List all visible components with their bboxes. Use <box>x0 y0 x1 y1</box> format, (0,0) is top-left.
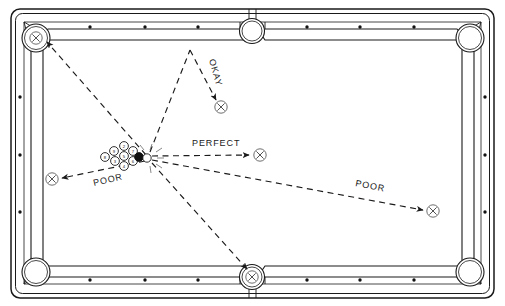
diamond-top-4 <box>305 25 308 28</box>
diagram-canvas: 8 9 2 7 5 4 3 <box>0 0 505 306</box>
diamond-bottom-3 <box>196 278 199 281</box>
diamond-bottom-1 <box>88 278 91 281</box>
ball-2[interactable]: 2 <box>120 142 129 151</box>
diamond-left-1 <box>18 95 21 98</box>
ball-3[interactable]: 3 <box>111 157 120 166</box>
cue-ball[interactable] <box>143 154 151 162</box>
diamond-left-3 <box>18 210 21 213</box>
diamond-bottom-6 <box>412 278 415 281</box>
pool-table-illustration: 8 9 2 7 5 4 3 <box>0 0 505 306</box>
diamond-right-2 <box>483 153 486 156</box>
ball-5[interactable]: 5 <box>120 152 129 161</box>
target-poor-right[interactable] <box>427 205 439 217</box>
target-okay[interactable] <box>215 101 227 113</box>
playing-surface <box>31 29 474 277</box>
diamond-bottom-2 <box>143 278 146 281</box>
ball-8[interactable]: 8 <box>101 153 110 162</box>
pocket-top-side[interactable] <box>240 19 265 44</box>
label-perfect: PERFECT <box>192 138 240 148</box>
target-perfect[interactable] <box>254 149 266 161</box>
diamond-right-3 <box>483 210 486 213</box>
diamond-top-6 <box>412 25 415 28</box>
pocket-top-right[interactable] <box>456 24 484 52</box>
pocket-bottom-right[interactable] <box>456 258 484 286</box>
diamond-top-5 <box>358 25 361 28</box>
diamond-top-1 <box>88 25 91 28</box>
ball-9[interactable]: 9 <box>110 147 119 156</box>
diamond-top-2 <box>143 25 146 28</box>
target-scratch-corner[interactable] <box>30 32 42 44</box>
diamond-bottom-4 <box>305 278 308 281</box>
ball-4[interactable]: 4 <box>120 162 129 171</box>
diamond-bottom-5 <box>358 278 361 281</box>
target-poor-left[interactable] <box>46 173 58 185</box>
pocket-bottom-left[interactable] <box>22 258 50 286</box>
diamond-right-1 <box>483 95 486 98</box>
diamond-left-2 <box>18 153 21 156</box>
eight-ball[interactable] <box>135 153 144 162</box>
diamond-top-3 <box>196 25 199 28</box>
target-scratch-side[interactable] <box>246 271 258 283</box>
